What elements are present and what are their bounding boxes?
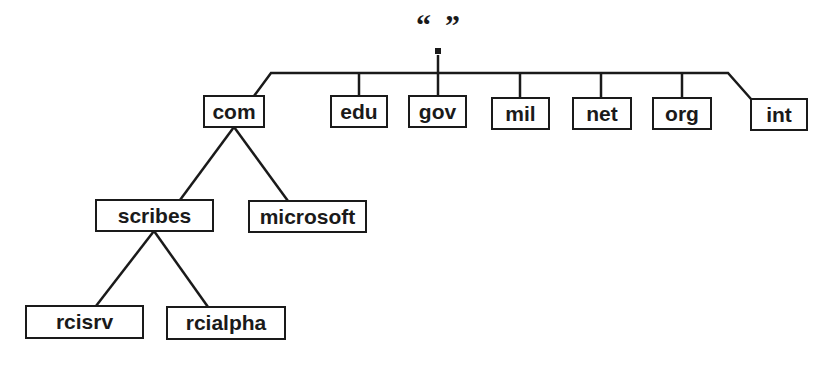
node-int: int xyxy=(750,98,808,131)
node-microsoft: microsoft xyxy=(248,200,367,233)
node-edu: edu xyxy=(330,95,388,128)
node-rcisrv: rcisrv xyxy=(25,305,144,339)
edge-scribes-rcialpha xyxy=(154,231,208,307)
root-dot xyxy=(435,48,441,54)
node-mil: mil xyxy=(491,97,550,130)
root-label: “” xyxy=(416,8,474,42)
edge-com-scribes xyxy=(180,127,234,200)
node-scribes: scribes xyxy=(95,199,214,232)
node-org: org xyxy=(652,97,712,130)
edge-com-microsoft xyxy=(234,127,288,201)
node-rcialpha: rcialpha xyxy=(166,306,286,340)
edge-scribes-rcisrv xyxy=(96,231,154,306)
edge-root-bar xyxy=(254,73,751,99)
node-net: net xyxy=(572,97,632,130)
node-gov: gov xyxy=(408,95,467,128)
node-com: com xyxy=(203,95,265,128)
dns-tree-diagram: “” com edu gov mil net org int scribes m… xyxy=(0,0,831,367)
